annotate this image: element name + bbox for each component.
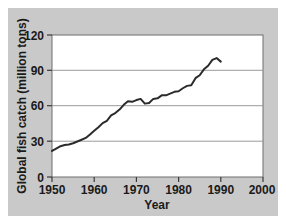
y-tick-label-90: 90 [31,64,45,78]
chart-svg: 120 90 60 30 0 1950 1960 1970 1980 1990 … [0,0,286,224]
x-tick-label-1970: 1970 [123,183,150,197]
x-axis-ticks [52,177,263,182]
y-axis-title: Global fish catch (million tons) [15,18,29,193]
figure-container: 120 90 60 30 0 1950 1960 1970 1980 1990 … [0,0,286,224]
y-tick-label-60: 60 [31,99,45,113]
y-axis-ticks [47,35,52,177]
x-axis-tick-labels: 1950 1960 1970 1980 1990 2000 [39,183,276,197]
x-tick-label-1960: 1960 [81,183,108,197]
x-tick-label-2000: 2000 [249,183,276,197]
x-tick-label-1980: 1980 [165,183,192,197]
x-tick-label-1990: 1990 [207,183,234,197]
y-tick-label-30: 30 [31,135,45,149]
x-tick-label-1950: 1950 [39,183,66,197]
x-axis-title: Year [144,198,170,212]
